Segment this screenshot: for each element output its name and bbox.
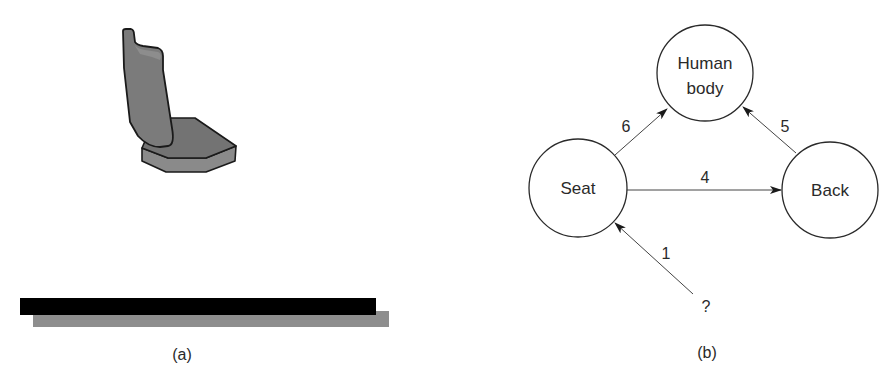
node-human-body: Human body [657, 25, 753, 121]
backrest-illustration [123, 29, 173, 147]
edge-label-4: 4 [701, 169, 710, 186]
unknown-source-label: ? [702, 298, 711, 315]
caption-a: (a) [172, 346, 192, 363]
node-back: Back [782, 142, 878, 238]
edge-unknown-to-seat [615, 223, 693, 294]
caption-b: (b) [697, 344, 717, 361]
node-seat-label: Seat [561, 179, 596, 198]
panel-b: 4 6 5 1 ? Seat Human body Back (b) [529, 25, 878, 361]
node-back-label: Back [811, 181, 849, 200]
floor-bar [20, 298, 376, 315]
panel-a: (a) [20, 29, 389, 363]
node-human-body-label-line1: Human [678, 54, 733, 73]
edge-label-1: 1 [662, 245, 671, 262]
edge-label-5: 5 [781, 118, 790, 135]
edge-label-6: 6 [622, 118, 631, 135]
figure-canvas: (a) 4 6 5 1 ? Seat Human body Back (b) [0, 0, 890, 382]
node-seat: Seat [529, 139, 627, 237]
node-human-body-label-line2: body [687, 79, 724, 98]
